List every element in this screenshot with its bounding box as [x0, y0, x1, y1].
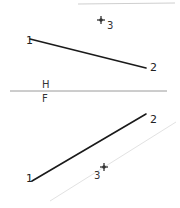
projection-diagram: 1 2 3 H F 1 2 3 [0, 0, 180, 208]
top-point-3-label: 3 [107, 20, 113, 31]
front-point-1-label: 1 [26, 172, 33, 185]
top-point-1-label: 1 [26, 34, 33, 47]
faint-edge-line [78, 3, 175, 4]
fold-label-f: F [42, 93, 48, 104]
point-3-marker-icon [97, 16, 105, 24]
front-view-line-1-2 [32, 114, 146, 181]
top-view-line-1-2 [30, 39, 146, 68]
point-3-marker-icon [100, 163, 108, 171]
top-point-2-label: 2 [150, 61, 157, 74]
front-point-2-label: 2 [150, 113, 157, 126]
front-point-3-label: 3 [94, 170, 100, 181]
fold-label-h: H [42, 79, 50, 90]
